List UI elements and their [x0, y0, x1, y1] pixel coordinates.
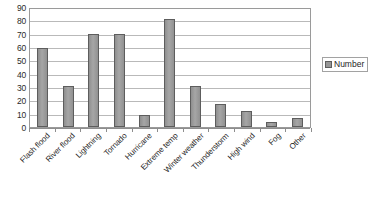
- bar-slot: [132, 9, 157, 127]
- y-tick-label: 80: [0, 17, 26, 26]
- bar: [114, 34, 125, 127]
- chart-legend: Number: [322, 57, 368, 72]
- y-tick-label: 10: [0, 110, 26, 119]
- x-tick: [311, 128, 312, 132]
- x-tick-label: High wind: [227, 132, 257, 162]
- bar-slot: [183, 9, 208, 127]
- bar: [88, 34, 99, 127]
- legend-label-number: Number: [334, 60, 364, 69]
- bar-chart: 0102030405060708090 Flash floodRiver flo…: [0, 0, 381, 198]
- x-axis: Flash floodRiver floodLightningTornadoHu…: [29, 132, 311, 198]
- bar: [164, 19, 175, 127]
- y-tick-label: 60: [0, 44, 26, 53]
- bar: [190, 86, 201, 127]
- y-tick-label: 0: [0, 124, 26, 133]
- y-tick-label: 90: [0, 4, 26, 13]
- x-tick-label: Lightning: [75, 132, 103, 160]
- bar-slot: [208, 9, 233, 127]
- bar-slot: [157, 9, 182, 127]
- y-tick-label: 20: [0, 97, 26, 106]
- x-tick-label: Other: [288, 132, 307, 151]
- bar: [37, 48, 48, 127]
- bar: [139, 115, 150, 127]
- bar-slot: [259, 9, 284, 127]
- plot-area: [29, 8, 311, 128]
- y-tick-label: 30: [0, 84, 26, 93]
- bar-slot: [234, 9, 259, 127]
- bar: [241, 111, 252, 127]
- bar: [292, 118, 303, 127]
- legend-swatch-number: [325, 61, 332, 68]
- bar-slot: [55, 9, 80, 127]
- bar: [215, 104, 226, 127]
- y-tick-label: 70: [0, 30, 26, 39]
- bar: [63, 86, 74, 127]
- bar-slot: [285, 9, 310, 127]
- bar-slot: [106, 9, 131, 127]
- y-tick-label: 50: [0, 57, 26, 66]
- bar-slot: [81, 9, 106, 127]
- x-tick-label: Fog: [267, 132, 282, 147]
- y-tick-label: 40: [0, 70, 26, 79]
- bar-slot: [30, 9, 55, 127]
- y-axis: 0102030405060708090: [0, 8, 26, 128]
- bars-layer: [30, 9, 310, 127]
- bar: [266, 122, 277, 127]
